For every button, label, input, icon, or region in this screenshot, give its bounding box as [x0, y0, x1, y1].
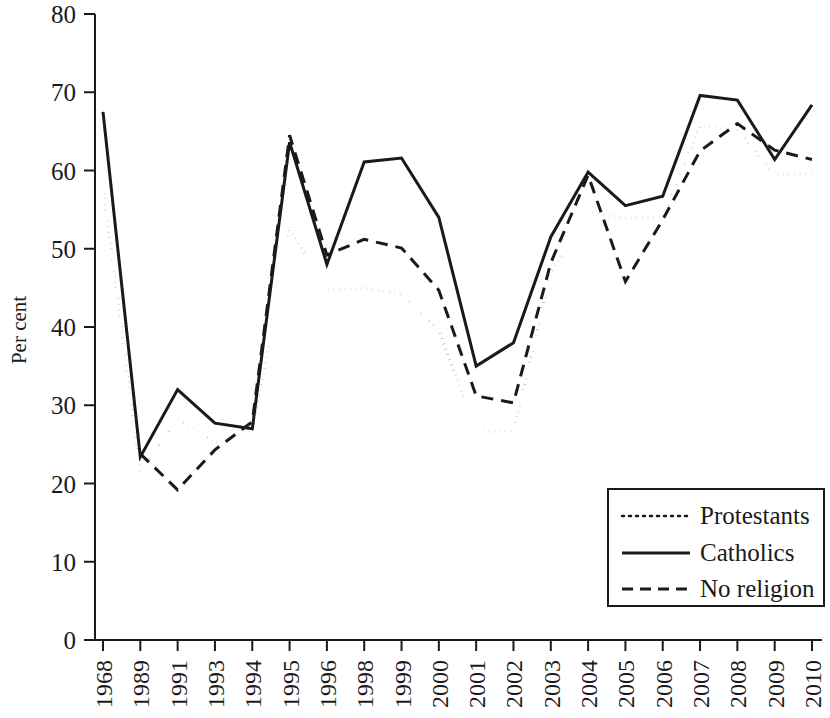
x-tick-label: 1991 [166, 660, 192, 708]
y-tick-label: 40 [51, 314, 76, 341]
legend-label-no-religion: No religion [700, 575, 815, 602]
y-tick-label: 20 [51, 471, 76, 498]
x-tick-label: 2000 [427, 660, 453, 708]
x-tick-label: 1998 [352, 660, 378, 708]
series-line-catholics [103, 95, 812, 457]
x-tick-label: 2004 [576, 660, 602, 708]
x-tick-label: 2003 [539, 660, 565, 708]
legend-label-catholics: Catholics [700, 539, 794, 566]
x-tick-label: 2006 [651, 660, 677, 708]
x-tick-label: 2002 [501, 660, 527, 708]
x-tick-label: 1999 [390, 660, 416, 708]
y-axis-label: Per cent [7, 296, 31, 364]
y-tick-label: 0 [64, 627, 77, 654]
y-tick-label: 60 [51, 158, 76, 185]
x-tick-label: 2005 [613, 660, 639, 708]
x-axis-ticks: 1968198919911993199419951996199819992000… [91, 640, 826, 708]
x-tick-label: 2007 [688, 660, 714, 708]
x-tick-label: 1993 [203, 660, 229, 708]
y-tick-label: 70 [51, 79, 76, 106]
x-tick-label: 1996 [315, 660, 341, 708]
chart-figure: Per cent 01020304050607080 1968198919911… [0, 0, 830, 718]
x-tick-label: 2001 [464, 660, 490, 708]
y-tick-label: 80 [51, 1, 76, 28]
x-tick-label: 2008 [725, 660, 751, 708]
y-tick-label: 50 [51, 236, 76, 263]
y-axis-ticks: 01020304050607080 [51, 1, 95, 654]
y-tick-label: 30 [51, 392, 76, 419]
y-axis-label-text: Per cent [7, 296, 31, 364]
x-tick-label: 2010 [800, 660, 826, 708]
x-tick-label: 1995 [278, 660, 304, 708]
legend: Protestants Catholics No religion [608, 489, 824, 606]
x-tick-label: 1994 [240, 660, 266, 708]
series-line-no-religion [140, 124, 812, 490]
x-tick-label: 1989 [128, 660, 154, 708]
series-layer [103, 95, 812, 489]
line-chart: Per cent 01020304050607080 1968198919911… [0, 0, 830, 718]
x-tick-label: 2009 [763, 660, 789, 708]
legend-label-protestants: Protestants [700, 502, 810, 529]
y-tick-label: 10 [51, 549, 76, 576]
x-tick-label: 1968 [91, 660, 117, 708]
